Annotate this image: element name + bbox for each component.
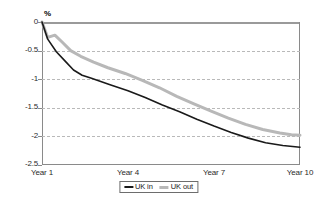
y-axis-tick-label: -0.5 (2, 46, 38, 54)
chart-legend: UK in UK out (119, 181, 198, 193)
y-axis-tick-label: 0 (2, 18, 38, 26)
x-axis-tick-label: Year 7 (192, 168, 236, 177)
series-line-uk-out (42, 22, 300, 135)
legend-line-icon (160, 186, 169, 189)
legend-label: UK in (135, 183, 153, 191)
y-axis-unit-label: % (44, 9, 51, 18)
series-container (42, 22, 300, 165)
y-axis-tick-label: -1 (2, 75, 38, 83)
x-axis-tick-label: Year 10 (278, 168, 317, 177)
y-axis-tick-label: -1.5 (2, 103, 38, 111)
x-axis-tick-label: Year 1 (20, 168, 64, 177)
x-axis-tick-label: Year 4 (106, 168, 150, 177)
line-chart: 0 -0.5 -1 -1.5 -2 -2.5 % Year 1 Year 4 Y… (0, 0, 317, 203)
legend-line-icon (124, 186, 133, 188)
y-axis-tick-label: -2.5 (2, 160, 38, 168)
legend-entry-uk-in: UK in (124, 183, 153, 191)
legend-entry-uk-out: UK out (160, 183, 193, 191)
legend-label: UK out (171, 183, 193, 191)
y-axis-tick-label: -2 (2, 132, 38, 140)
y-axis-tick-mark (38, 165, 42, 166)
